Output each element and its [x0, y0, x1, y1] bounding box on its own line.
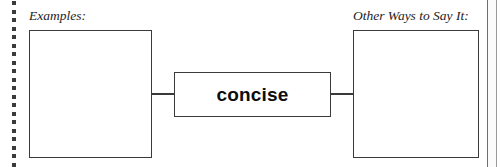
binding-dot: [12, 86, 16, 90]
connector-line-right: [330, 93, 354, 95]
binding-dot: [12, 95, 16, 99]
page-edge-line-icon-inner: [487, 0, 488, 167]
connector-line-left: [151, 93, 175, 95]
worksheet-page: Examples: concise Other Ways to Say It:: [0, 0, 503, 167]
binding-dot: [12, 52, 16, 56]
binding-dot: [12, 69, 16, 73]
center-term-box[interactable]: concise: [174, 72, 331, 117]
binding-dot: [12, 163, 16, 167]
binding-dot: [12, 27, 16, 31]
page-edge-fill: [488, 0, 496, 167]
center-term-label: concise: [216, 84, 288, 106]
binding-dot: [12, 44, 16, 48]
binding-dot: [12, 18, 16, 22]
examples-caption: Examples:: [29, 8, 86, 24]
binding-dot: [12, 35, 16, 39]
dotted-binding-holes-icon: [12, 0, 18, 167]
binding-dot: [12, 120, 16, 124]
binding-dot: [12, 1, 16, 5]
binding-dot: [12, 10, 16, 14]
binding-dot: [12, 61, 16, 65]
other-ways-to-say-it-caption: Other Ways to Say It:: [353, 8, 469, 24]
binding-dot: [12, 78, 16, 82]
binding-dot: [12, 146, 16, 150]
page-edge-line-icon-outer: [496, 0, 497, 167]
binding-dot: [12, 112, 16, 116]
examples-answer-box[interactable]: [29, 30, 152, 158]
binding-dot: [12, 137, 16, 141]
binding-dot: [12, 154, 16, 158]
binding-dot: [12, 103, 16, 107]
binding-dot: [12, 129, 16, 133]
other-ways-to-say-it-answer-box[interactable]: [353, 30, 479, 158]
